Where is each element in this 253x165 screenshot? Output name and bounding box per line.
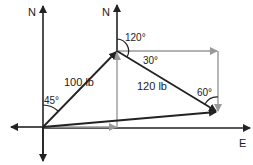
vector-resultant [43, 112, 216, 127]
label-30deg: 30° [143, 55, 158, 66]
label-east: E [239, 137, 246, 149]
label-100lb: 100 lb [64, 76, 94, 88]
vector-diagram: N N E 100 lb 120 lb 45° 120° 30° 60° [0, 0, 253, 165]
label-120lb: 120 lb [137, 80, 167, 92]
label-north-left: N [28, 6, 36, 18]
arc-60 [205, 97, 218, 104]
diagram-svg: N N E 100 lb 120 lb 45° 120° 30° 60° [0, 0, 253, 165]
label-60deg: 60° [197, 87, 212, 98]
label-45deg: 45° [44, 95, 59, 106]
label-north-right: N [102, 6, 110, 18]
label-120deg: 120° [125, 32, 146, 43]
vector-100lb [43, 52, 116, 127]
